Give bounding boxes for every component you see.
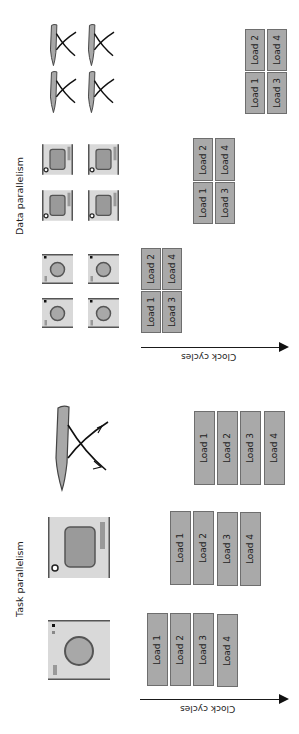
task-iron-load-3: Load 3 — [240, 411, 261, 485]
washing-machine-icon — [42, 254, 73, 284]
data-dryer-load-1: Load 1 — [193, 182, 213, 224]
iron-icon — [88, 22, 115, 67]
task-iron-load-4: Load 4 — [264, 411, 285, 485]
washing-machine-icon — [88, 298, 119, 328]
data-washer-load-4: Load 4 — [162, 248, 182, 290]
task-washer-load-1: Load 1 — [147, 613, 168, 686]
data-iron-load-1: Load 1 — [245, 72, 265, 114]
task-dryer-load-4: Load 4 — [240, 512, 261, 586]
data-clock-axis-label: Clock cycles — [181, 352, 236, 362]
task-iron-load-2: Load 2 — [217, 411, 238, 485]
washing-machine-icon — [48, 620, 110, 680]
washing-machine-icon — [88, 254, 119, 284]
data-parallelism-title: Data parallelism — [14, 157, 25, 235]
task-clock-axis-arrowhead — [279, 694, 289, 704]
dryer-icon — [42, 143, 73, 176]
task-parallelism-title: Task parallelism — [14, 541, 25, 617]
data-washer-load-3: Load 3 — [162, 291, 182, 333]
data-washer-load-2: Load 2 — [141, 248, 161, 290]
iron-icon — [55, 403, 110, 491]
dryer-icon — [48, 517, 110, 578]
data-iron-load-2: Load 2 — [245, 29, 265, 71]
task-iron-load-1: Load 1 — [194, 411, 215, 485]
washing-machine-icon — [42, 298, 73, 328]
task-dryer-load-3: Load 3 — [217, 512, 238, 586]
task-washer-load-2: Load 2 — [170, 613, 191, 686]
data-iron-load-4: Load 4 — [267, 29, 287, 71]
data-dryer-load-3: Load 3 — [215, 182, 235, 224]
task-washer-load-4: Load 4 — [217, 614, 238, 687]
iron-icon — [50, 69, 77, 114]
task-dryer-load-2: Load 2 — [193, 511, 214, 585]
task-clock-axis-label: Clock cycles — [180, 704, 235, 714]
dryer-icon — [88, 143, 119, 176]
task-dryer-load-1: Load 1 — [170, 511, 191, 585]
iron-icon — [50, 22, 77, 67]
dryer-icon — [88, 189, 119, 222]
data-clock-axis — [141, 347, 281, 348]
data-iron-load-3: Load 3 — [267, 72, 287, 114]
task-clock-axis — [140, 699, 280, 700]
dryer-icon — [42, 189, 73, 222]
data-washer-load-1: Load 1 — [141, 291, 161, 333]
iron-icon — [88, 69, 115, 114]
data-dryer-load-4: Load 4 — [215, 138, 235, 181]
task-washer-load-3: Load 3 — [193, 613, 214, 686]
data-clock-axis-arrowhead — [279, 342, 289, 352]
data-dryer-load-2: Load 2 — [193, 138, 213, 181]
